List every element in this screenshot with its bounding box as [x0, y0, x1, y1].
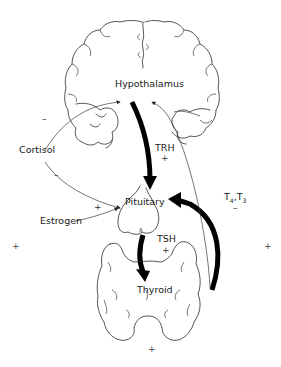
trh-arrow — [132, 102, 157, 190]
plus-sign-left: + — [12, 241, 20, 251]
t3-subscript: 3 — [242, 197, 246, 204]
tsh-plus-sign: + — [162, 246, 170, 255]
tsh-label: TSH — [157, 234, 176, 244]
cortisol-pituitary-minus-sign: – — [54, 171, 59, 180]
hypothalamus-label: Hypothalamus — [115, 79, 184, 89]
trh-label: TRH — [155, 143, 175, 153]
estrogen-label: Estrogen — [40, 216, 82, 226]
pituitary-gland — [118, 186, 159, 234]
plus-sign-bottom: + — [148, 344, 156, 354]
estrogen-plus-sign: + — [94, 203, 102, 212]
cortisol-to-pituitary-arrow — [45, 162, 120, 208]
thyroid-label: Thyroid — [137, 285, 173, 295]
cortisol-to-hypothalamus-arrow — [45, 102, 120, 150]
cortisol-label: Cortisol — [19, 145, 55, 155]
pituitary-label: Pituitary — [125, 197, 165, 207]
hpt-axis-diagram: + + + — [0, 0, 281, 367]
tsh-arrow — [136, 235, 150, 282]
trh-plus-sign: + — [161, 154, 169, 163]
t4-t3-minus-sign: – — [233, 204, 238, 213]
cortisol-hypothalamus-minus-sign: – — [42, 115, 47, 124]
plus-sign-right: + — [264, 241, 272, 251]
